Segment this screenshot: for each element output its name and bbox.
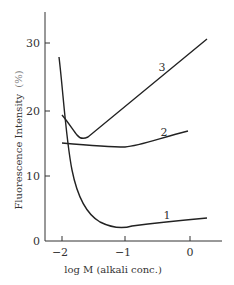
- y-tick-label-10: 10: [26, 170, 40, 183]
- y-axis-label: Fluorescence Intensity(%): [13, 70, 24, 209]
- y-tick-label-0: 0: [33, 235, 40, 248]
- series-3-line: [62, 39, 207, 138]
- x-tick-label-0: 0: [187, 246, 194, 259]
- x-axis-label: log M (alkali conc.): [64, 264, 162, 275]
- series-3-label: 3: [159, 61, 166, 74]
- x-tick-label-m1: −1: [115, 246, 131, 259]
- x-tick-label-m2: −2: [52, 246, 68, 259]
- y-tick-label-20: 20: [26, 105, 40, 118]
- y-tick-label-30: 30: [26, 37, 40, 50]
- series-1-line: [59, 57, 207, 228]
- chart-canvas: 30 20 10 0 −2 −1 0 log M (alkali conc.) …: [0, 0, 234, 285]
- series-1-label: 1: [164, 209, 171, 222]
- series-2-label: 2: [161, 126, 168, 139]
- series-2-line: [62, 131, 188, 147]
